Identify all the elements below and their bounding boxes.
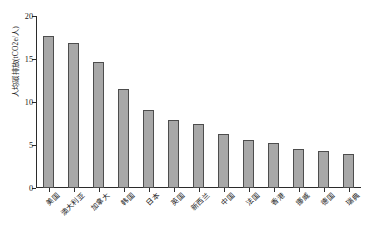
x-axis-label: 韩国: [118, 190, 135, 207]
bar: [143, 110, 155, 188]
y-tick-label: 0: [29, 184, 33, 193]
bar: [68, 43, 80, 188]
x-axis-label: 日本: [143, 190, 160, 207]
x-axis-label: 挪威: [293, 190, 310, 207]
bar: [118, 89, 130, 188]
bar: [193, 124, 205, 188]
x-axis-label: 英国: [168, 190, 185, 207]
bar: [93, 62, 105, 188]
x-axis-labels: 美国澳大利亚加拿大韩国日本英国新西兰中国法国香港挪威德国瑞典: [36, 190, 361, 246]
y-tick-label: 15: [25, 55, 33, 64]
x-axis-label: 法国: [243, 190, 260, 207]
bar: [318, 151, 330, 188]
x-axis-label: 中国: [218, 190, 235, 207]
x-axis-label: 瑞典: [343, 190, 360, 207]
x-axis-label: 澳大利亚: [58, 190, 85, 217]
bar: [43, 36, 55, 188]
y-tick-label: 20: [25, 12, 33, 21]
bar-chart: 人均碳排放(tCO2e/人) 05101520 美国澳大利亚加拿大韩国日本英国新…: [0, 0, 374, 247]
y-axis-title: 人均碳排放(tCO2e/人): [9, 0, 20, 132]
x-axis-label: 德国: [318, 190, 335, 207]
x-axis-label: 香港: [268, 190, 285, 207]
bar: [268, 143, 280, 188]
x-axis-label: 新西兰: [188, 190, 210, 212]
bar: [343, 154, 355, 188]
x-axis-label: 美国: [43, 190, 60, 207]
bar: [218, 134, 230, 188]
bar: [168, 120, 180, 188]
y-tick-label: 10: [25, 98, 33, 107]
y-tick-label: 5: [29, 141, 33, 150]
y-tick-0: 0: [36, 188, 37, 189]
x-axis-label: 加拿大: [88, 190, 110, 212]
bar: [243, 140, 255, 188]
bar-series: [36, 16, 361, 188]
plot-area: 05101520: [36, 16, 361, 188]
bar: [293, 149, 305, 188]
